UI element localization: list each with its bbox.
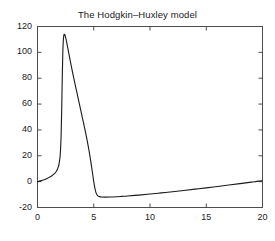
y-tick-label: 0	[2, 176, 32, 186]
plot-area	[0, 0, 275, 241]
y-tick-label: 120	[2, 21, 32, 31]
figure-canvas: The Hodgkin–Huxley model -20020406080100…	[0, 0, 275, 241]
x-tick-label: 5	[82, 212, 106, 222]
axes-frame	[38, 27, 263, 208]
x-tick-label: 0	[26, 212, 50, 222]
axis-ticks	[38, 27, 263, 208]
y-tick-label: 100	[2, 46, 32, 56]
x-tick-label: 10	[138, 212, 162, 222]
y-tick-label: 60	[2, 98, 32, 108]
data-series-line	[38, 34, 263, 197]
y-tick-label: 80	[2, 72, 32, 82]
x-tick-label: 15	[194, 212, 218, 222]
y-tick-label: 40	[2, 124, 32, 134]
x-tick-label: 20	[251, 212, 275, 222]
y-tick-label: 20	[2, 150, 32, 160]
y-tick-label: -20	[2, 202, 32, 212]
